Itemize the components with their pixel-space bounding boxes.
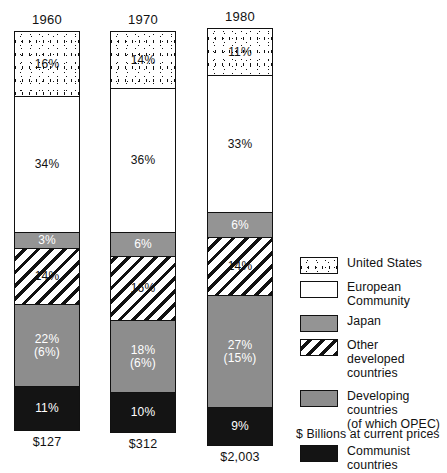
legend-swatch-developing-countries-icon <box>300 390 338 407</box>
segment-japan-1980[interactable]: 6% <box>208 212 272 237</box>
bar-column-1980: 1980 11% 33% 6% 14% 27% (15%) 9% $2,003 <box>207 9 273 464</box>
legend-item-japan[interactable]: Japan <box>300 314 447 332</box>
chart-caption: $ Billions at current prices <box>296 427 440 441</box>
bar-stack-1960: 16% 34% 3% 14% 22% (6%) 11% <box>14 31 80 431</box>
segment-label: 10% <box>131 406 156 419</box>
segment-label: 33% <box>228 138 253 151</box>
legend-item-european-community[interactable]: European Community <box>300 280 447 308</box>
year-label-1960: 1960 <box>14 12 80 27</box>
segment-united-states-1960[interactable]: 16% <box>15 32 79 96</box>
segment-label: 9% <box>231 420 249 433</box>
segment-united-states-1970[interactable]: 14% <box>111 32 175 88</box>
total-value-1970: $312 <box>110 437 176 451</box>
legend-swatch-other-developed-icon <box>300 339 338 356</box>
segment-european-community-1960[interactable]: 34% <box>15 96 79 232</box>
segment-label: 11% <box>35 402 59 415</box>
legend-label: European Community <box>347 280 447 308</box>
segment-label: 36% <box>131 154 156 167</box>
year-label-1970: 1970 <box>110 12 176 27</box>
segment-other-developed-1970[interactable]: 16% <box>111 256 175 320</box>
segment-label: 11% <box>228 46 252 59</box>
legend-label: Japan <box>347 314 381 328</box>
bar-column-1970: 1970 14% 36% 6% 16% 18% (6%) 10% $312 <box>110 12 176 451</box>
segment-other-developed-1960[interactable]: 14% <box>15 248 79 304</box>
segment-japan-1960[interactable]: 3% <box>15 232 79 248</box>
segment-label: 18% (6%) <box>130 344 156 370</box>
segment-communist-countries-1980[interactable]: 9% <box>208 407 272 445</box>
legend-label: United States <box>347 256 422 270</box>
segment-european-community-1980[interactable]: 33% <box>208 75 272 212</box>
segment-label: 16% <box>35 58 60 71</box>
segment-label: 3% <box>38 234 56 247</box>
segment-label: 14% <box>131 54 156 67</box>
segment-label: 27% (15%) <box>223 339 256 365</box>
segment-label: 6% <box>231 219 249 232</box>
segment-label: 14% <box>35 270 60 283</box>
segment-developing-countries-1970[interactable]: 18% (6%) <box>111 320 175 392</box>
segment-label: 6% <box>134 238 152 251</box>
segment-label: 34% <box>35 158 60 171</box>
legend-item-developing-countries[interactable]: Developing countries (of which OPEC) <box>300 389 447 431</box>
bar-stack-1980: 11% 33% 6% 14% 27% (15%) 9% <box>207 28 273 446</box>
segment-communist-countries-1960[interactable]: 11% <box>15 386 79 430</box>
segment-developing-countries-1980[interactable]: 27% (15%) <box>208 295 272 407</box>
segment-label: 14% <box>228 260 253 273</box>
legend-item-other-developed-countries[interactable]: Other developed countries <box>300 338 447 380</box>
segment-other-developed-1980[interactable]: 14% <box>208 237 272 295</box>
segment-united-states-1980[interactable]: 11% <box>208 29 272 75</box>
legend-label: Other developed countries <box>347 338 447 380</box>
legend-label: Developing countries (of which OPEC) <box>347 389 447 431</box>
legend-swatch-communist-countries-icon <box>300 445 338 462</box>
legend-item-united-states[interactable]: United States <box>300 256 447 274</box>
year-label-1980: 1980 <box>207 9 273 24</box>
legend-swatch-united-states-icon <box>300 257 338 274</box>
segment-japan-1970[interactable]: 6% <box>111 232 175 256</box>
segment-european-community-1970[interactable]: 36% <box>111 88 175 232</box>
bar-stack-1970: 14% 36% 6% 16% 18% (6%) 10% <box>110 31 176 433</box>
legend-swatch-japan-icon <box>300 315 338 332</box>
legend-swatch-european-community-icon <box>300 281 338 298</box>
segment-label: 22% (6%) <box>34 333 60 359</box>
legend-item-communist-countries[interactable]: Communist countries <box>300 444 447 472</box>
legend-label: Communist countries <box>347 444 447 472</box>
total-value-1980: $2,003 <box>207 450 273 464</box>
segment-label: 16% <box>131 282 156 295</box>
bar-column-1960: 1960 16% 34% 3% 14% 22% (6%) 11% $127 <box>14 12 80 449</box>
total-value-1960: $127 <box>14 435 80 449</box>
segment-developing-countries-1960[interactable]: 22% (6%) <box>15 304 79 386</box>
segment-communist-countries-1970[interactable]: 10% <box>111 392 175 432</box>
